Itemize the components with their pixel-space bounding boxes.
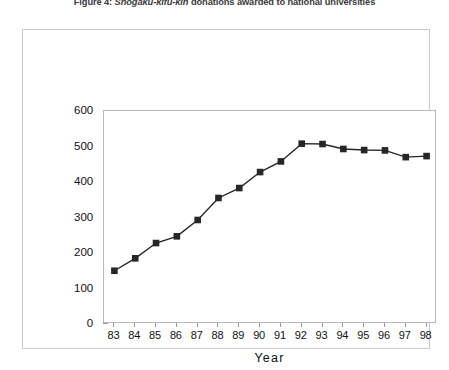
x-tick-mark [217,323,218,327]
plot-area [103,110,436,323]
x-tick-mark [426,323,427,327]
x-tick-mark [176,323,177,327]
x-tick-mark [134,323,135,327]
data-point-marker [382,147,389,154]
data-point-marker [423,153,430,160]
figure-caption-prefix: Figure 4: [74,0,115,7]
data-point-marker [298,140,305,147]
x-tick-mark [342,323,343,327]
x-tick-mark [405,323,406,327]
x-tick-mark [113,323,114,327]
data-point-marker [153,240,160,247]
x-axis-title: Year [103,351,436,365]
x-tick-mark [197,323,198,327]
data-point-marker [236,185,243,192]
y-tick-label: 300 [57,211,93,223]
x-tick-mark [259,323,260,327]
data-point-marker [319,141,326,148]
x-tick-mark [363,323,364,327]
x-tick-mark [301,323,302,327]
x-tick-mark [384,323,385,327]
x-tick-mark [322,323,323,327]
data-point-marker [257,169,264,176]
data-point-marker [194,217,201,224]
figure-frame: Funds in JPY 100 million 010020030040050… [22,29,430,349]
data-point-marker [174,233,181,240]
x-tick-mark [238,323,239,327]
y-tick-label: 400 [57,175,93,187]
figure-caption-italic-term: Shogaku-kifu-kin [115,0,189,7]
data-point-marker [402,154,409,161]
data-point-marker [278,158,285,165]
x-axis-ticks: 83848586878889909192939495969798 [103,323,436,345]
figure-caption: Figure 4: Shogaku-kifu-kin donations awa… [0,0,449,10]
data-point-marker [361,147,368,154]
y-tick-label: 600 [57,104,93,116]
figure-caption-suffix: donations awarded to national universiti… [188,0,375,7]
data-point-marker [215,195,222,202]
y-tick-label: 200 [57,246,93,258]
data-line [114,144,426,271]
x-tick-mark [280,323,281,327]
y-tick-label: 0 [57,317,93,329]
data-point-marker [111,267,118,274]
data-series-shogaku-kifu-kin [104,111,437,324]
data-point-marker [132,255,139,262]
y-tick-label: 100 [57,282,93,294]
x-tick-label: 98 [413,329,439,341]
x-tick-mark [155,323,156,327]
data-point-marker [340,146,347,153]
y-tick-label: 500 [57,140,93,152]
